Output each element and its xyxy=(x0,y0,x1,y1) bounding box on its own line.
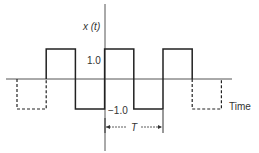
amplitude-high-label: 1.0 xyxy=(87,55,101,66)
solid-pulse xyxy=(105,49,134,79)
solid-pulse xyxy=(46,49,75,79)
amplitude-low-label: −1.0 xyxy=(108,105,128,116)
dashed-pulse xyxy=(192,79,221,109)
solid-pulse xyxy=(163,49,192,79)
x-axis-label: Time xyxy=(229,101,251,112)
square-wave-diagram: x (t) 1.0 −1.0 Time T xyxy=(0,0,259,153)
solid-pulse xyxy=(134,79,163,109)
solid-pulse xyxy=(75,79,104,109)
y-axis-label: x (t) xyxy=(82,21,100,32)
arrowhead-right-icon xyxy=(158,125,162,129)
dashed-pulse xyxy=(17,79,46,109)
period-label: T xyxy=(131,122,138,133)
arrowhead-left-icon xyxy=(106,125,110,129)
